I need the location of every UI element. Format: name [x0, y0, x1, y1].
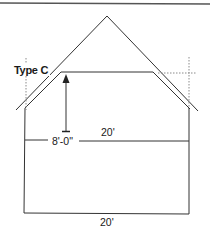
attic-width-label: 20'	[101, 126, 115, 138]
top-rule	[0, 3, 210, 4]
left-wall	[24, 108, 25, 213]
inner-roof-ceiling-line	[25, 72, 190, 109]
floor-width-label: 20'	[100, 216, 114, 228]
roof-section-diagram: Type C 8'-0" 20' 20'	[0, 0, 210, 234]
type-label: Type C	[14, 64, 48, 76]
ceiling-height-label: 8'-0"	[52, 135, 73, 147]
floor-line	[24, 213, 189, 214]
arrow-up-icon	[63, 74, 70, 83]
